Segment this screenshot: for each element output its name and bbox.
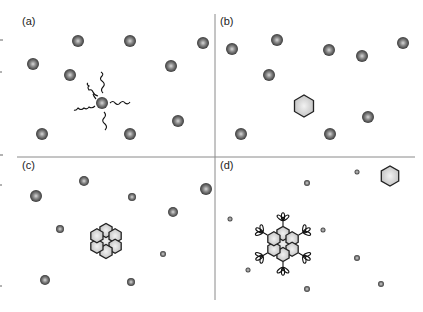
panel-a: (a) (22, 15, 209, 140)
nanoparticle-sphere-icon (246, 268, 251, 273)
panel-label-c: (c) (22, 159, 35, 171)
nanoparticle-sphere-icon (40, 275, 50, 285)
panel-label-b: (b) (220, 15, 233, 27)
hexagon-cluster (91, 224, 121, 259)
panel-c: (c) (22, 159, 212, 286)
nanoparticle-sphere-icon (355, 170, 360, 175)
nanoparticle-sphere-icon (356, 50, 368, 62)
spheres (27, 35, 209, 140)
nanoparticle-sphere-icon (72, 35, 84, 47)
panel-label-a: (a) (22, 15, 35, 27)
nanoparticle-sphere-icon (168, 207, 178, 217)
hexagon-icon (268, 232, 280, 246)
nanoparticle-sphere-icon (321, 228, 326, 233)
nanoparticle-sphere-icon (304, 286, 310, 292)
nanoparticle-sphere-icon (56, 225, 64, 233)
hexagonal-particles (381, 166, 398, 186)
nanoparticle-sphere-icon (160, 251, 166, 257)
nanoparticle-sphere-icon (362, 111, 374, 123)
hexagon-icon (295, 95, 314, 117)
nanoparticle-sphere-icon (30, 190, 42, 202)
functionalized-hexagon-cluster (255, 213, 311, 276)
panel-d: (d) (220, 159, 399, 292)
nanoparticle-sphere-icon (226, 43, 238, 55)
nanoparticle-sphere-icon (378, 281, 384, 287)
hexagon-icon (381, 166, 398, 186)
nanoparticle-sphere-icon (200, 183, 212, 195)
nanoparticle-sphere-icon (124, 35, 136, 47)
margin-ticks (0, 40, 3, 286)
nanoparticle-assembly-figure: (a) (b) (c) (d) (0, 0, 423, 312)
nanoparticle-sphere-icon (271, 34, 283, 46)
nanoparticle-sphere-icon (228, 217, 233, 222)
nanoparticle-sphere-icon (64, 69, 76, 81)
nanoparticle-sphere-icon (96, 97, 108, 109)
hexagonal-particles (295, 95, 314, 117)
nanoparticle-sphere-icon (128, 193, 136, 201)
nanoparticle-sphere-icon (27, 58, 39, 70)
nanoparticle-sphere-icon (127, 278, 135, 286)
spheres (30, 176, 212, 286)
nanoparticle-sphere-icon (354, 255, 360, 261)
nanoparticle-sphere-icon (79, 176, 89, 186)
panel-b: (b) (220, 15, 409, 140)
nanoparticle-sphere-icon (197, 37, 209, 49)
nanoparticle-sphere-icon (397, 37, 409, 49)
nanoparticle-sphere-icon (36, 128, 48, 140)
nanoparticle-sphere-icon (235, 128, 247, 140)
nanoparticle-sphere-icon (172, 115, 184, 127)
nanoparticle-sphere-icon (324, 128, 336, 140)
panel-label-d: (d) (220, 159, 233, 171)
nanoparticle-sphere-icon (263, 69, 275, 81)
hexagon-icon (91, 229, 103, 243)
nanoparticle-sphere-icon (165, 60, 177, 72)
nanoparticle-sphere-icon (124, 128, 136, 140)
spheres (226, 34, 409, 140)
nanoparticle-sphere-icon (304, 180, 310, 186)
nanoparticle-sphere-icon (323, 44, 335, 56)
